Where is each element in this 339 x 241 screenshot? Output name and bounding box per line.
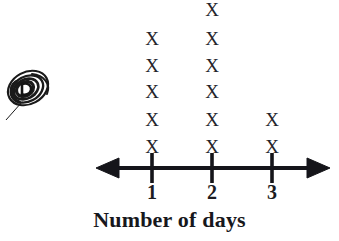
x-mark: X — [141, 29, 163, 48]
x-mark: X — [201, 29, 223, 48]
x-mark: X — [141, 56, 163, 75]
x-mark: X — [141, 82, 163, 101]
x-marks-layer: XXXXXXXXXXXXX — [0, 0, 339, 241]
axis-tick-label-1: 1 — [137, 182, 167, 202]
x-mark: X — [141, 110, 163, 129]
x-mark: X — [201, 82, 223, 101]
axis-tick-label-2: 2 — [197, 182, 227, 202]
chart-canvas: XXXXXXXXXXXXX 1 2 3 Number of days — [0, 0, 339, 241]
x-mark: X — [201, 110, 223, 129]
axis-tick-label-3: 3 — [257, 182, 287, 202]
x-mark: X — [201, 137, 223, 156]
x-mark: X — [201, 0, 223, 19]
x-mark: X — [201, 56, 223, 75]
x-mark: X — [141, 137, 163, 156]
x-mark: X — [261, 137, 283, 156]
x-mark: X — [261, 110, 283, 129]
x-axis-title: Number of days — [0, 208, 339, 232]
